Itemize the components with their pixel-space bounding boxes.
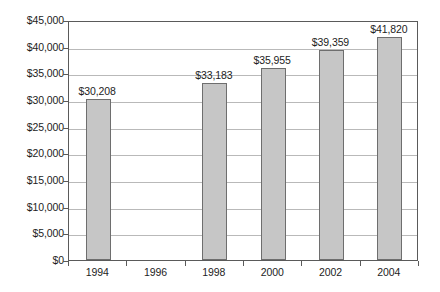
x-axis-tick-label: 1996: [126, 266, 186, 278]
x-axis-tick-label: 1994: [67, 266, 127, 278]
gridline: [69, 182, 417, 183]
bar: [377, 37, 402, 260]
x-axis-tick-labels: 199419961998200020022004: [68, 266, 418, 286]
y-axis-tick-label: $15,000: [2, 175, 64, 186]
bar: [86, 99, 111, 260]
bar-chart-figure: $45,000$40,000$35,000$30,000$25,000$20,0…: [0, 0, 440, 292]
gridline: [69, 102, 417, 103]
y-axis-tick-label: $0: [2, 255, 64, 266]
y-axis-tick-label: $5,000: [2, 228, 64, 239]
bar: [202, 83, 227, 260]
y-axis-tick-label: $20,000: [2, 148, 64, 159]
y-axis-tick-label: $10,000: [2, 202, 64, 213]
bar: [261, 68, 286, 260]
x-axis-tick-label: 2004: [359, 266, 419, 278]
gridline: [69, 235, 417, 236]
gridline: [69, 49, 417, 50]
bar: [319, 50, 344, 260]
y-axis-tick-label: $30,000: [2, 95, 64, 106]
x-axis-tick-label: 2002: [301, 266, 361, 278]
plot-area: [68, 21, 418, 261]
y-axis-tick-label: $25,000: [2, 122, 64, 133]
gridline: [69, 209, 417, 210]
y-axis-tick-labels: $45,000$40,000$35,000$30,000$25,000$20,0…: [0, 0, 64, 292]
y-axis-tick-label: $35,000: [2, 68, 64, 79]
x-axis-tick-label: 1998: [184, 266, 244, 278]
gridline: [69, 155, 417, 156]
y-axis-tick-label: $45,000: [2, 15, 64, 26]
y-axis-tick-label: $40,000: [2, 42, 64, 53]
x-axis-tick-label: 2000: [242, 266, 302, 278]
gridline: [69, 75, 417, 76]
gridline: [69, 129, 417, 130]
